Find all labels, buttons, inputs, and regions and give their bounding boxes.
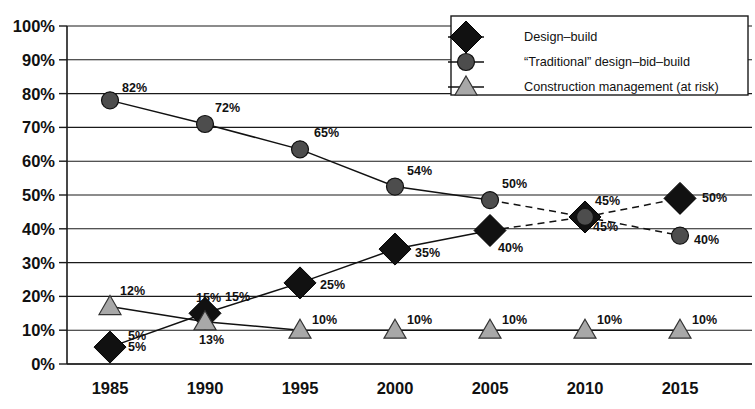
data-point-label: 40%: [498, 241, 523, 255]
data-point-marker-circle: [482, 192, 499, 209]
data-point-label: 15%: [225, 290, 250, 304]
data-point-marker-circle: [672, 227, 689, 244]
y-axis-tick-label: 50%: [22, 186, 55, 204]
y-axis-tick-label: 30%: [22, 254, 55, 272]
data-point-marker-triangle: [384, 319, 406, 338]
data-point-label-overlap: 5%: [128, 329, 146, 343]
y-axis-tick-label: 20%: [22, 287, 55, 305]
data-point-label: 10%: [692, 313, 717, 327]
data-point-marker-diamond: [94, 331, 126, 363]
chart-container: 0%10%20%30%40%50%60%70%80%90%100% 198519…: [0, 0, 755, 409]
data-point-marker-diamond: [284, 267, 316, 299]
y-axis-tick-label: 10%: [22, 321, 55, 339]
data-point-label: 45%: [595, 194, 620, 208]
x-axis-tick-label: 2015: [662, 379, 699, 397]
data-point-label: 10%: [407, 313, 432, 327]
data-point-label: 54%: [407, 164, 432, 178]
data-point-marker-circle: [197, 116, 214, 133]
data-point-marker-triangle: [99, 296, 121, 315]
data-point-label: 65%: [314, 126, 339, 140]
data-point-label: 40%: [694, 233, 719, 247]
data-point-marker-circle: [292, 141, 309, 158]
data-point-marker-triangle: [289, 319, 311, 338]
data-point-label: 25%: [320, 278, 345, 292]
data-point-label: 50%: [502, 177, 527, 191]
data-point-label: 10%: [502, 313, 527, 327]
x-axis-tick-label: 2010: [567, 379, 604, 397]
y-axis-tick-label: 100%: [13, 17, 56, 35]
x-axis-tick-label: 2005: [472, 379, 509, 397]
y-axis-tick-label: 80%: [22, 85, 55, 103]
data-point-marker-diamond: [379, 233, 411, 265]
x-axis-tick-label: 1990: [187, 379, 224, 397]
data-point-label: 72%: [215, 101, 240, 115]
x-axis-tick-label: 1985: [92, 379, 129, 397]
data-point-label: 50%: [702, 191, 727, 205]
data-point-marker-triangle: [669, 319, 691, 338]
y-axis-tick-label: 90%: [22, 51, 55, 69]
data-point-label: 10%: [597, 313, 622, 327]
y-axis-tick-label: 70%: [22, 118, 55, 136]
data-point-label-overlap: 15%: [196, 291, 221, 305]
y-axis-tick-label: 0%: [31, 355, 55, 373]
data-point-marker-triangle: [479, 319, 501, 338]
data-point-marker-diamond: [664, 182, 696, 214]
legend-entry-label: Design–build: [524, 30, 597, 44]
y-axis-ticks: [59, 26, 67, 364]
data-point-marker-circle: [577, 208, 594, 225]
chart-legend: Design–build“Traditional” design–bid–bui…: [448, 16, 748, 95]
legend-entry-label: Construction management (at risk): [524, 80, 719, 94]
data-point-label: 35%: [415, 246, 440, 260]
legend-marker-circle: [458, 54, 475, 71]
legend-entry-label: “Traditional” design–bid–build: [524, 55, 690, 69]
line-chart: 0%10%20%30%40%50%60%70%80%90%100% 198519…: [0, 0, 755, 409]
x-axis-tick-label: 1995: [282, 379, 319, 397]
y-axis-labels: 0%10%20%30%40%50%60%70%80%90%100%: [13, 17, 56, 373]
y-axis-tick-label: 60%: [22, 152, 55, 170]
data-point-label: 10%: [312, 313, 337, 327]
data-point-marker-circle: [387, 178, 404, 195]
data-point-label: 82%: [122, 81, 147, 95]
x-axis-labels: 1985199019952000200520102015: [92, 379, 699, 397]
data-point-label: 12%: [120, 284, 145, 298]
y-axis-tick-label: 40%: [22, 220, 55, 238]
data-point-label: 13%: [199, 333, 224, 347]
x-axis-tick-label: 2000: [377, 379, 414, 397]
data-point-marker-circle: [102, 92, 119, 109]
data-point-label: 45%: [593, 220, 618, 234]
data-point-marker-triangle: [574, 319, 596, 338]
